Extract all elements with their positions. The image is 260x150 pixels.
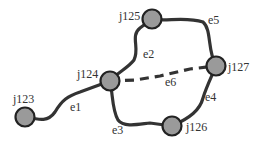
node-label-j123: j123 [12,92,34,106]
edge-e5 [152,19,216,66]
edge-label-e4: e4 [205,90,216,104]
node-label-j127: j127 [227,60,249,74]
node-label-j126: j126 [185,120,207,134]
node-j125 [143,10,162,29]
network-diagram: e1e2e3e4e5e6j123j124j125j126j127 [0,0,260,150]
node-j123 [16,108,35,127]
edge-e3 [110,81,172,126]
node-j127 [207,57,226,76]
node-label-j125: j125 [118,9,140,23]
edge-label-e3: e3 [112,123,123,137]
node-j124 [101,72,120,91]
edge-label-e1: e1 [70,100,81,114]
edges-layer [25,19,216,126]
edge-label-e5: e5 [208,13,219,27]
edge-label-e2: e2 [143,47,154,61]
edge-e1 [25,81,110,119]
edge-label-e6: e6 [165,75,176,89]
network-graph-svg: e1e2e3e4e5e6j123j124j125j126j127 [0,0,260,150]
node-label-j124: j124 [76,67,98,81]
node-j126 [163,117,182,136]
